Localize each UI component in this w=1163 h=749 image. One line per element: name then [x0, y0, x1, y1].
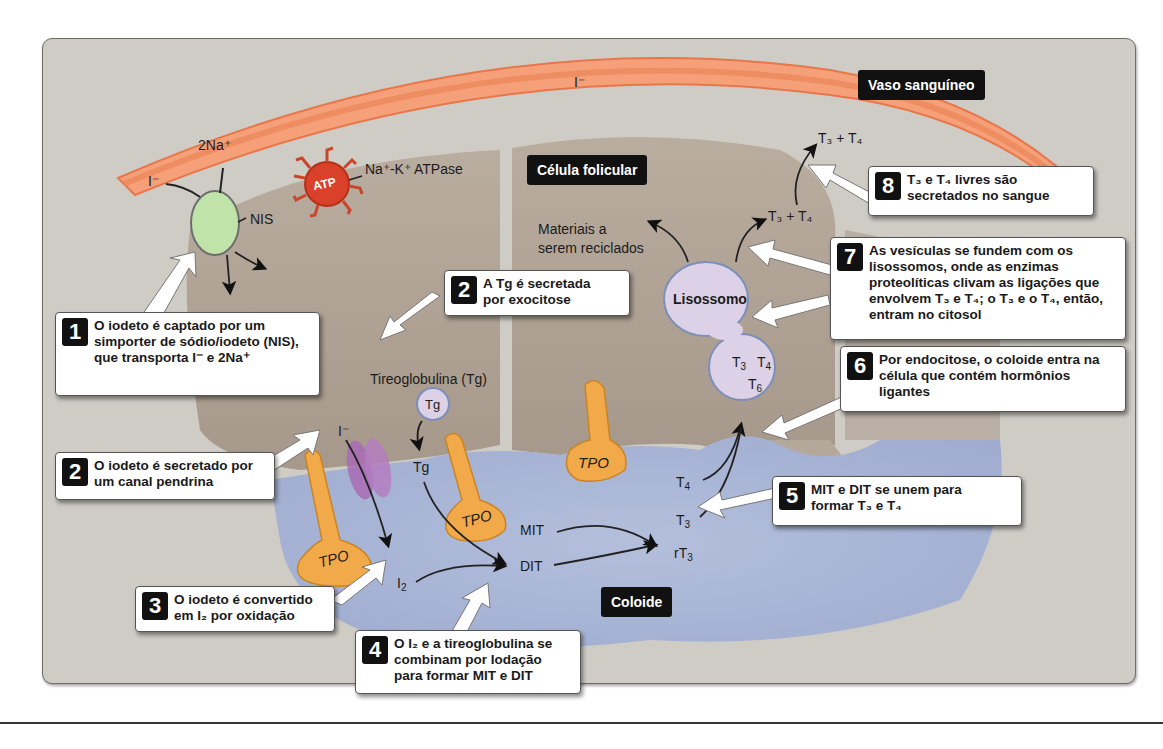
t4-colloid-label: T4 — [676, 475, 690, 492]
step-7-number: 7 — [837, 243, 863, 271]
step-2-exocytosis-text: A Tg é secretada por exocitose — [483, 276, 603, 308]
iodide-vessel-label: I⁻ — [574, 75, 585, 89]
blood-vessel-tag: Vaso sanguíneo — [858, 70, 985, 100]
step-3-text: O iodeto é convertido em I₂ por oxidação — [174, 592, 326, 624]
step-8-callout: 8 T₃ e T₄ livres são secretados no sangu… — [868, 166, 1094, 216]
vesicle-t4-label: T4 — [757, 355, 771, 372]
step-2-pendrin-callout: 2 O iodeto é secretado por um canal pend… — [55, 452, 275, 500]
step-6-number: 6 — [847, 352, 873, 380]
blood-t3t4-label: T₃ + T₄ — [818, 131, 862, 145]
rt3-colloid-label: rT3 — [674, 546, 693, 563]
step-7-callout: 7 As vesículas se fundem com os lisossom… — [830, 237, 1126, 340]
step-4-text: O I₂ e a tireoglobulina se combinam por … — [394, 636, 572, 684]
iodide-nis-label: I⁻ — [148, 174, 159, 188]
tg-vesicle-label: Tg — [425, 397, 440, 412]
iodide-pendrin-label: I⁻ — [338, 424, 349, 438]
step-2-exocytosis-number: 2 — [451, 276, 477, 304]
step-2-pendrin-number: 2 — [62, 458, 88, 486]
step-6-callout: 6 Por endocitose, o coloide entra na cél… — [840, 346, 1126, 412]
recycled-label-line2: serem reciclados — [538, 241, 644, 255]
step-5-text: MIT e DIT se unem para formar T₃ e T₄ — [811, 482, 981, 514]
step-1-text: O iodeto é captado por um simporter de s… — [94, 318, 311, 366]
i2-label: I2 — [397, 576, 406, 593]
sodium-label: 2Na⁺ — [198, 138, 231, 152]
step-5-number: 5 — [779, 482, 805, 510]
step-6-text: Por endocitose, o coloide entra na célul… — [879, 352, 1115, 400]
cytosol-t3t4-label: T₃ + T₄ — [768, 209, 812, 223]
thyroglobulin-label: Tireoglobulina (Tg) — [370, 372, 487, 386]
step-4-callout: 4 O I₂ e a tireoglobulina se combinam po… — [355, 630, 581, 694]
step-2-pendrin-text: O iodeto é secretado por um canal pendri… — [94, 458, 266, 490]
recycled-label-line1: Materiais a — [538, 222, 606, 236]
follicular-cell-tag: Célula folicular — [527, 155, 647, 185]
atpase-label: Na⁺-K⁺ ATPase — [365, 162, 463, 176]
bottom-divider — [0, 722, 1163, 724]
dit-label: DIT — [520, 559, 543, 573]
t3-colloid-label: T3 — [676, 513, 690, 530]
nis-transporter — [191, 191, 239, 255]
vesicle-t3-label: T3 — [732, 355, 746, 372]
step-8-text: T₃ e T₄ livres são secretados no sangue — [907, 172, 1085, 204]
nis-label: NIS — [250, 212, 273, 226]
step-1-callout: 1 O iodeto é captado por um simporter de… — [55, 312, 320, 396]
step-2-exocytosis-callout: 2 A Tg é secretada por exocitose — [444, 270, 630, 316]
colloid-tag: Coloide — [601, 587, 672, 617]
step-5-callout: 5 MIT e DIT se unem para formar T₃ e T₄ — [772, 476, 1022, 526]
tg-colloid-label: Tg — [413, 460, 429, 474]
step-3-number: 3 — [142, 592, 168, 620]
vesicle-t6-label: T6 — [748, 377, 762, 394]
step-3-callout: 3 O iodeto é convertido em I₂ por oxidaç… — [135, 586, 335, 632]
step-1-number: 1 — [62, 318, 88, 346]
tpo-label-right: TPO — [578, 454, 609, 471]
step-8-number: 8 — [875, 172, 901, 200]
lysosome-label: Lisossomo — [673, 292, 747, 306]
mit-label: MIT — [520, 523, 544, 537]
step-4-number: 4 — [362, 636, 388, 664]
step-7-text: As vesículas se fundem com os lisossomos… — [869, 243, 1117, 323]
